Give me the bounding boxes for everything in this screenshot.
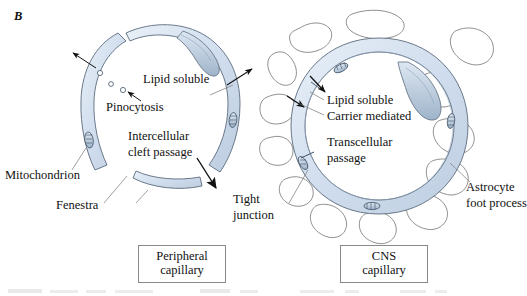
mitochondrion-leader — [72, 148, 86, 170]
endothelial-segment-bottom — [133, 171, 202, 188]
fenestra-leader-2 — [136, 190, 148, 203]
label-astrocyte-line1: Astrocyte — [466, 180, 515, 195]
pinocytosis-vesicle — [109, 82, 114, 87]
pinocytosis-vesicle — [97, 70, 102, 75]
label-tight-junction-line2: junction — [233, 208, 274, 223]
label-lipid-soluble-cns: Lipid soluble — [327, 93, 393, 108]
peripheral-box-line1: Peripheral — [145, 249, 219, 263]
panel-label-b: B — [14, 9, 22, 24]
lipid-soluble-leader-cns — [310, 92, 324, 100]
fenestra-leader — [104, 176, 127, 203]
label-carrier-mediated: Carrier mediated — [327, 109, 411, 124]
label-tight-junction-line1: Tight — [233, 192, 260, 207]
cns-box-line1: CNS — [347, 249, 421, 263]
cns-capillary-graphic — [260, 10, 494, 243]
label-transcellular-line2: passage — [327, 151, 366, 166]
label-lipid-soluble-peripheral: Lipid soluble — [143, 72, 209, 87]
label-astrocyte-line2: foot process — [466, 196, 527, 211]
cns-capillary-box: CNS capillary — [340, 245, 428, 283]
mitochondrion-shape-4 — [364, 202, 380, 209]
figure-canvas: B Lipid soluble Pinocytosis Intercellula… — [0, 0, 527, 296]
label-pinocytosis: Pinocytosis — [106, 100, 164, 115]
label-fenestra: Fenestra — [56, 198, 98, 213]
peripheral-capillary-box: Peripheral capillary — [138, 245, 226, 283]
label-intercellular-cleft-line2: cleft passage — [128, 145, 192, 160]
label-transcellular-line1: Transcellular — [327, 135, 393, 150]
peripheral-box-line2: capillary — [145, 263, 219, 277]
cns-box-line2: capillary — [347, 263, 421, 277]
pinocytosis-vesicle — [120, 87, 125, 92]
clipped-caption-strip — [8, 289, 447, 293]
capillary-diagram-artwork — [0, 0, 527, 296]
label-intercellular-cleft-line1: Intercellular — [128, 129, 189, 144]
label-mitochondrion: Mitochondrion — [5, 168, 80, 183]
